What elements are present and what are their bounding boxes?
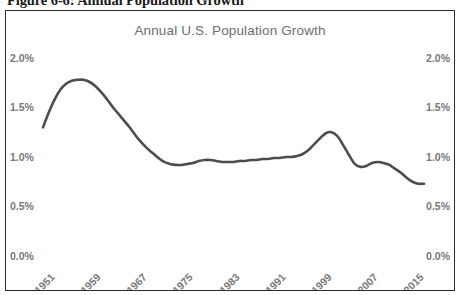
x-axis-tick-label: 1991 xyxy=(259,272,288,291)
x-axis-tick-label: 1975 xyxy=(166,272,195,291)
x-axis-tick-label: 2015 xyxy=(397,272,426,291)
x-axis-tick-label: 1951 xyxy=(28,272,57,291)
x-axis-tick-label: 1959 xyxy=(74,272,103,291)
chart-container: Annual U.S. Population Growth 2.0%1.5%1.… xyxy=(5,10,455,291)
x-axis-tick-label: 1999 xyxy=(305,272,334,291)
figure-page: Figure 6-6: Annual Population Growth Ann… xyxy=(0,0,462,295)
x-axis-tick-label: 1983 xyxy=(212,272,241,291)
x-axis: 195119591967197519831991199920072015 xyxy=(6,11,454,290)
figure-caption: Figure 6-6: Annual Population Growth xyxy=(7,0,437,10)
x-axis-tick-label: 2007 xyxy=(351,272,380,291)
x-axis-tick-label: 1967 xyxy=(120,272,149,291)
